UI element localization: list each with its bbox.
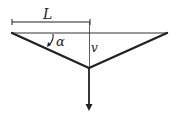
deflection-label: v: [91, 42, 98, 54]
left-bar: [12, 33, 89, 68]
length-label: L: [43, 7, 52, 21]
load-arrow: [86, 68, 93, 111]
angle-arc: [47, 34, 53, 47]
truss-diagram: L α v: [0, 0, 177, 120]
diagram-graphic: [0, 0, 177, 120]
angle-label: α: [56, 35, 65, 48]
right-bar: [89, 33, 167, 68]
